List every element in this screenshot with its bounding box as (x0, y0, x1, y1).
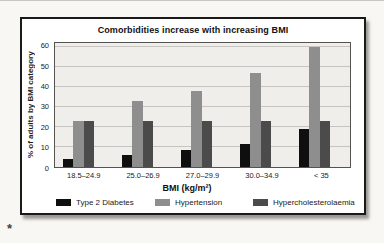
x-tick-label: 18.5–24.9 (54, 171, 113, 180)
bar (63, 159, 74, 167)
plot-area (54, 42, 351, 168)
bar-group (226, 43, 285, 167)
scanned-page: { "page": { "annotation_mark": "*" }, "c… (0, 0, 384, 243)
page-annotation-mark: * (7, 221, 12, 236)
legend-item: Hypercholesterolaemia (253, 198, 355, 207)
legend-label: Type 2 Diabetes (76, 198, 134, 207)
figure-panel: Comorbidities increase with increasing B… (20, 17, 366, 215)
chart-legend: Type 2 DiabetesHypertensionHypercholeste… (22, 198, 364, 212)
x-tick-label: 27.0–29.9 (173, 171, 232, 180)
legend-item: Type 2 Diabetes (56, 198, 134, 207)
y-tick-label: 50 (41, 62, 49, 70)
legend-swatch (253, 199, 268, 206)
bar (261, 121, 272, 167)
legend-label: Hypercholesterolaemia (273, 198, 355, 207)
legend-swatch (56, 199, 71, 206)
chart-title: Comorbidities increase with increasing B… (22, 25, 364, 35)
bar-group (108, 43, 167, 167)
x-tick-label: < 35 (292, 171, 351, 180)
y-tick-label: 10 (41, 144, 49, 152)
bar (202, 121, 213, 167)
bar (191, 91, 202, 167)
bar (132, 101, 143, 167)
bar (299, 129, 310, 167)
y-tick-label: 60 (41, 42, 49, 50)
bar (122, 155, 133, 167)
y-axis-ticks: 0102030405060 (35, 42, 51, 168)
y-tick-label: 20 (41, 123, 49, 131)
x-tick-label: 25.0–26.9 (113, 171, 172, 180)
legend-swatch (155, 199, 170, 206)
x-axis-ticks: 18.5–24.925.0–26.927.0–29.930.0–34.9< 35 (54, 171, 351, 180)
x-axis-title: BMI (kg/m²) (22, 183, 352, 193)
y-tick-label: 30 (41, 103, 49, 111)
bar-row (55, 43, 350, 167)
bar (143, 121, 154, 167)
bar (309, 47, 320, 167)
bar-group (285, 43, 344, 167)
legend-item: Hypertension (155, 198, 222, 207)
y-tick-label: 0 (45, 164, 49, 172)
bar (73, 121, 84, 167)
bar (84, 121, 95, 167)
x-tick-label: 30.0–34.9 (232, 171, 291, 180)
bar (240, 144, 251, 167)
bar (320, 121, 331, 167)
bar-group (167, 43, 226, 167)
y-tick-label: 40 (41, 83, 49, 91)
bar (181, 150, 192, 167)
bar (250, 73, 261, 167)
legend-label: Hypertension (175, 198, 222, 207)
bar-group (54, 43, 108, 167)
